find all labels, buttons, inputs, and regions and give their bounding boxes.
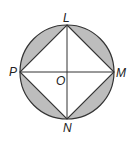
label-m: M: [116, 66, 126, 80]
label-n: N: [63, 121, 72, 135]
label-l: L: [63, 11, 70, 25]
label-p: P: [9, 65, 17, 79]
label-o: O: [56, 74, 65, 88]
geometry-diagram: L P M N O: [0, 0, 135, 144]
